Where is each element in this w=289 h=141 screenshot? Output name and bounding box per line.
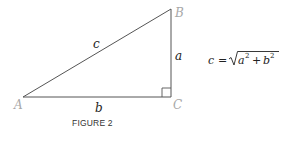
equation-lhs: c (208, 54, 214, 67)
radicand-term-a: a (238, 54, 245, 67)
exponent-b: 2 (270, 52, 274, 60)
radicand-term-b: b (263, 54, 270, 67)
side-label-c: c (93, 37, 100, 51)
vertex-label-a: A (13, 98, 23, 112)
right-angle-marker (162, 88, 171, 97)
pythagorean-equation: c = a 2 + b 2 (208, 52, 279, 68)
vertex-label-b: B (174, 6, 184, 20)
side-c-hypotenuse (23, 9, 171, 97)
vertex-label-c: C (173, 98, 182, 112)
right-triangle-figure: A B C c a b c = a 2 + b 2 (0, 0, 289, 141)
equation-equals: = (218, 54, 227, 67)
exponent-a: 2 (245, 52, 249, 60)
side-label-a: a (175, 49, 182, 63)
side-label-b: b (95, 101, 103, 115)
figure-caption: FIGURE 2 (72, 118, 113, 128)
equation-plus: + (252, 54, 261, 67)
